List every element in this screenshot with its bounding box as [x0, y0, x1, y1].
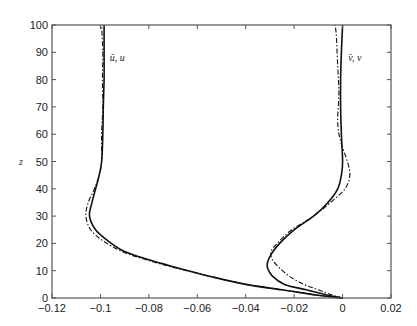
- series-dashdot-line: [271, 25, 350, 298]
- plot-curves: [86, 25, 350, 298]
- x-axis-ticks: −0.12−0.1−0.08−0.06−0.04−0.0200.02: [38, 25, 402, 314]
- curve-labels: ū, uv̄, v: [110, 52, 362, 63]
- y-tick-label: 10: [36, 265, 48, 277]
- y-tick-label: 20: [36, 237, 48, 249]
- y-tick-label: 100: [30, 19, 48, 31]
- y-tick-label: 50: [36, 156, 48, 168]
- chart: −0.12−0.1−0.08−0.06−0.04−0.0200.02 01020…: [0, 0, 417, 326]
- x-tick-label: −0.06: [183, 302, 211, 314]
- y-tick-label: 70: [36, 101, 48, 113]
- y-tick-label: 30: [36, 210, 48, 222]
- x-tick-label: −0.08: [135, 302, 163, 314]
- y-tick-label: 60: [36, 128, 48, 140]
- y-tick-label: 0: [42, 292, 48, 304]
- x-tick-label: −0.04: [232, 302, 260, 314]
- x-tick-label: −0.02: [280, 302, 308, 314]
- x-tick-label: 0.02: [380, 302, 401, 314]
- y-axis-label: z: [18, 156, 23, 167]
- y-tick-label: 40: [36, 183, 48, 195]
- series-solid-line: [89, 25, 342, 298]
- series-solid-line: [267, 25, 343, 298]
- y-tick-label: 90: [36, 46, 48, 58]
- x-tick-label: 0: [340, 302, 346, 314]
- curve-label: v̄, v: [348, 52, 362, 63]
- x-tick-label: −0.1: [90, 302, 112, 314]
- y-axis-ticks: 0102030405060708090100: [30, 19, 391, 304]
- curve-label: ū, u: [110, 52, 125, 63]
- y-tick-label: 80: [36, 74, 48, 86]
- series-dashdot-line: [86, 25, 343, 298]
